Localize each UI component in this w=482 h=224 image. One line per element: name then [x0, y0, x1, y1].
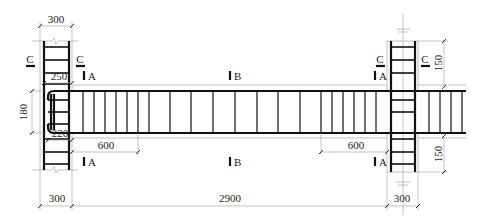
section-marks: C C C C A A B B A A — [26, 53, 430, 168]
section-a-left-top: A — [88, 70, 96, 82]
section-c-left-1: C — [26, 53, 33, 65]
dim-right-column-bottom: 300 — [394, 192, 411, 204]
section-a-right-top: A — [379, 70, 387, 82]
section-c-left-2: C — [76, 53, 83, 65]
dim-left-column-top: 300 — [48, 13, 65, 25]
structural-drawing: 300 250 180 220 600 600 1 — [0, 0, 482, 224]
section-b-bottom: B — [234, 156, 241, 168]
section-c-right-2: C — [421, 53, 428, 65]
section-b-top: B — [234, 70, 241, 82]
dim-beam-span: 2900 — [219, 192, 242, 204]
dim-left-dense-zone: 600 — [98, 139, 115, 151]
right-column — [355, 14, 466, 215]
dim-top-anchorage: 250 — [51, 70, 68, 82]
dim-bottom-anchorage: 220 — [52, 127, 69, 139]
section-a-left-bottom: A — [88, 156, 96, 168]
dimensions: 300 250 180 220 600 600 1 — [17, 13, 448, 210]
section-a-right-bottom: A — [379, 156, 387, 168]
dim-right-dense-zone: 600 — [348, 139, 365, 151]
dim-beam-depth: 180 — [17, 103, 29, 120]
dim-left-column-bottom: 300 — [49, 192, 66, 204]
section-c-right-1: C — [376, 53, 383, 65]
dim-right-column-upper: 150 — [432, 54, 444, 71]
dim-right-column-lower: 150 — [432, 145, 444, 162]
